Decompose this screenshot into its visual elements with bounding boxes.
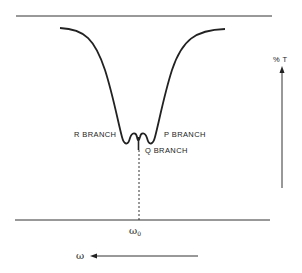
q-branch-label: Q BRANCH [145, 146, 188, 155]
spectrum-diagram: R BRANCH P BRANCH Q BRANCH % T ω0 ω [0, 0, 302, 273]
omega-direction-label: ω [76, 250, 84, 261]
transmittance-label: % T [273, 55, 287, 64]
arrow-left-icon [90, 254, 97, 259]
arrow-up-icon [280, 66, 285, 73]
omega-zero-label: ω0 [129, 225, 141, 237]
p-branch-label: P BRANCH [164, 130, 206, 139]
r-branch-label: R BRANCH [74, 130, 116, 139]
absorption-curve [60, 28, 225, 144]
